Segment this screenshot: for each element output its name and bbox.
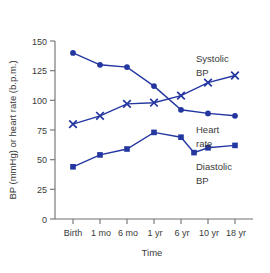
y-axis-title: BP (mmHg) or heart rate (b.p.m.): [7, 60, 18, 199]
systolic-bp-point: [205, 111, 211, 117]
x-axis-ticks: [73, 219, 235, 224]
x-tick-label-18yr: 18 yr: [226, 228, 246, 238]
y-tick-label-25: 25: [37, 185, 47, 195]
systolic-bp-point: [97, 62, 103, 68]
systolic-bp-point: [178, 107, 184, 113]
y-tick-label-150: 150: [32, 37, 47, 47]
chart-figure: 0 25 50 75 100 125 150 Birth 1 mo 6 mo 1…: [0, 0, 270, 273]
diastolic-bp-label: Diastolic BP: [196, 161, 232, 186]
systolic-bp-label-line2: BP: [196, 67, 209, 78]
diastolic-bp-point: [97, 152, 103, 158]
heart-rate-markers: [69, 72, 239, 128]
systolic-bp-point: [151, 83, 157, 89]
diastolic-bp-point: [70, 164, 76, 170]
y-tick-label-50: 50: [37, 155, 47, 165]
systolic-bp-label-line1: Systolic: [196, 53, 229, 64]
y-tick-label-100: 100: [32, 96, 47, 106]
heart-rate-label-line1: Heart: [196, 124, 220, 135]
heart-rate-label-line2: rate: [196, 138, 212, 149]
y-axis-ticks: [50, 41, 55, 219]
diastolic-bp-point: [178, 134, 184, 140]
x-tick-label-6mo: 6 mo: [118, 228, 138, 238]
series-heart-rate: [69, 72, 239, 128]
x-tick-label-10yr: 10 yr: [199, 228, 219, 238]
y-tick-label-75: 75: [37, 126, 47, 136]
systolic-bp-point: [124, 64, 130, 70]
x-axis-tick-labels: Birth 1 mo 6 mo 1 yr 6 yr 10 yr 18 yr: [64, 228, 246, 238]
systolic-bp-label: Systolic BP: [196, 53, 229, 78]
diastolic-bp-point: [151, 130, 157, 136]
line-chart-svg: 0 25 50 75 100 125 150 Birth 1 mo 6 mo 1…: [0, 0, 270, 273]
x-tick-label-1yr: 1 yr: [147, 228, 162, 238]
heart-rate-line: [73, 76, 235, 125]
x-tick-label-6yr: 6 yr: [174, 228, 189, 238]
systolic-bp-point: [70, 50, 76, 56]
diastolic-bp-label-line1: Diastolic: [196, 161, 232, 172]
x-axis-title: Time: [142, 247, 163, 258]
y-tick-label-125: 125: [32, 66, 47, 76]
heart-rate-label: Heart rate: [196, 124, 220, 149]
x-tick-label-1mo: 1 mo: [91, 228, 111, 238]
y-axis-tick-labels: 0 25 50 75 100 125 150: [32, 37, 47, 225]
diastolic-bp-point: [124, 146, 130, 152]
systolic-bp-point: [232, 113, 238, 119]
x-tick-label-birth: Birth: [64, 228, 83, 238]
y-tick-label-0: 0: [42, 215, 47, 225]
diastolic-bp-label-line2: BP: [196, 175, 209, 186]
diastolic-bp-point: [232, 143, 238, 149]
diastolic-bp-point: [191, 150, 197, 156]
